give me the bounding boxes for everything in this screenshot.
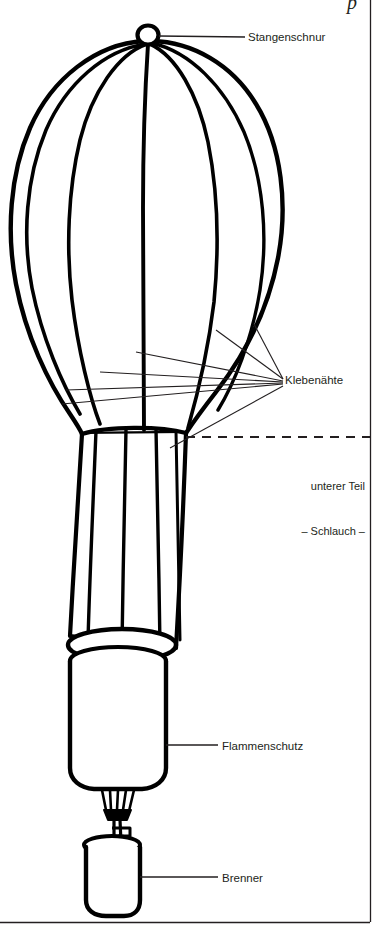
burner-body [86,847,140,916]
flame-guard-body [70,661,166,789]
suspension-cords [102,790,134,811]
page-corner-mark: p [347,0,357,14]
leader-line-klebenaehte-2 [254,324,283,379]
balloon-diagram-figure: Stangenschnur Klebenähte unterer Teil – … [0,0,379,934]
label-unterer-teil-line2: – Schlauch – [180,524,365,539]
label-klebenaehte: Klebenähte [285,373,343,387]
cord-gather-clamp [104,810,131,820]
label-brenner: Brenner [222,871,263,885]
label-flammenschutz: Flammenschutz [222,739,303,753]
label-unterer-teil-line1: unterer Teil [180,479,365,494]
label-stangenschnur: Stangenschnur [248,30,325,44]
label-unterer-teil-schlauch: unterer Teil – Schlauch – [180,449,365,569]
crown-ring [138,26,159,45]
leader-line-stangenschnur [159,36,245,37]
